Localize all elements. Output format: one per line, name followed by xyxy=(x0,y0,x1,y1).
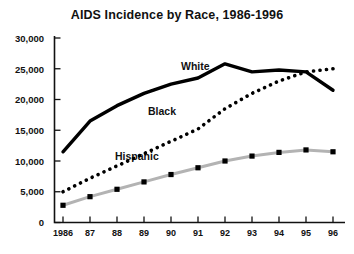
series-line-black xyxy=(63,69,333,192)
series-line-white xyxy=(63,64,333,152)
plot-area xyxy=(0,0,354,254)
series-line-hispanic xyxy=(63,150,333,205)
series-markers-hispanic xyxy=(60,147,335,208)
x-axis-ticks xyxy=(63,217,333,223)
y-axis-ticks xyxy=(55,38,61,223)
aids-incidence-chart: AIDS Incidence by Race, 1986-1996 0 5,00… xyxy=(0,0,354,254)
